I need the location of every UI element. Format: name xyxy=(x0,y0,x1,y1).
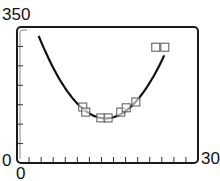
plot-frame-inner xyxy=(20,30,27,159)
data-point-marker xyxy=(82,108,90,116)
data-point-marker xyxy=(161,43,169,51)
plot-area xyxy=(0,0,220,181)
data-point-marker xyxy=(152,43,160,51)
data-point-marker xyxy=(104,114,112,122)
data-point-marker xyxy=(122,104,130,112)
data-point-marker xyxy=(132,98,140,106)
fit-curve xyxy=(39,36,165,118)
